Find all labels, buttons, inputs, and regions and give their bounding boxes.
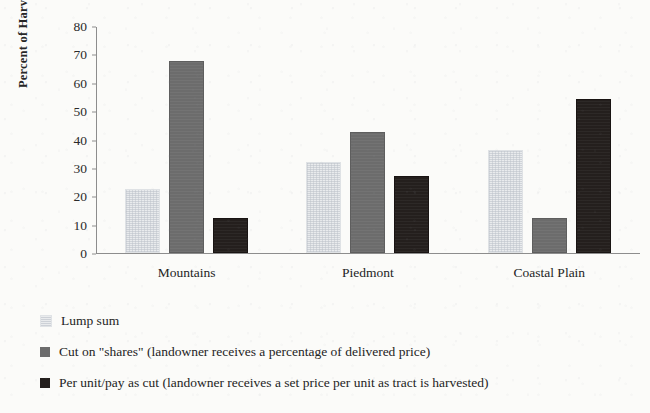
- bar: [488, 150, 523, 253]
- x-axis-tick-label: Piedmont: [277, 265, 458, 281]
- bar-group: Piedmont: [277, 27, 458, 254]
- y-axis-title: Percent of Harvests: [16, 0, 34, 88]
- y-axis-tick-label: 0: [47, 247, 87, 261]
- y-axis-tick-label: 30: [47, 162, 87, 176]
- legend-swatch-icon: [40, 378, 50, 388]
- legend-item-label: Lump sum: [61, 313, 119, 329]
- bar-chart-figure: Percent of Harvests 01020304050607080 Mo…: [0, 0, 650, 413]
- bar: [213, 218, 248, 253]
- legend-swatch-icon: [40, 347, 50, 357]
- y-axis-tick-label: 40: [47, 134, 87, 148]
- bar-group-container: MountainsPiedmontCoastal Plain: [96, 27, 640, 254]
- y-axis-tick-label: 50: [47, 105, 87, 119]
- bar: [350, 132, 385, 253]
- legend-item[interactable]: Per unit/pay as cut (landowner receives …: [40, 367, 640, 398]
- y-axis-tick-label: 20: [47, 191, 87, 205]
- legend-item-label: Per unit/pay as cut (landowner receives …: [59, 375, 489, 391]
- plot-area: 01020304050607080 MountainsPiedmontCoast…: [96, 27, 640, 254]
- legend-item[interactable]: Lump sum: [40, 305, 640, 336]
- x-axis-tick-label: Coastal Plain: [459, 265, 640, 281]
- y-axis-tick-label: 70: [47, 49, 87, 63]
- legend-item-label: Cut on "shares" (landowner receives a pe…: [59, 344, 430, 360]
- y-axis-tick-label: 60: [47, 77, 87, 91]
- y-axis-tick-label: 80: [47, 20, 87, 34]
- bar-group: Coastal Plain: [459, 27, 640, 254]
- chart-legend: Lump sumCut on "shares" (landowner recei…: [40, 305, 640, 398]
- bar: [394, 176, 429, 253]
- bar: [576, 99, 611, 253]
- legend-item[interactable]: Cut on "shares" (landowner receives a pe…: [40, 336, 640, 367]
- bar-group: Mountains: [96, 27, 277, 254]
- y-axis-tick-label: 10: [47, 219, 87, 233]
- bar: [169, 61, 204, 253]
- bar: [532, 218, 567, 253]
- bar: [125, 189, 160, 253]
- x-axis-tick-label: Mountains: [96, 265, 277, 281]
- legend-swatch-icon: [40, 315, 52, 327]
- bar: [306, 162, 341, 253]
